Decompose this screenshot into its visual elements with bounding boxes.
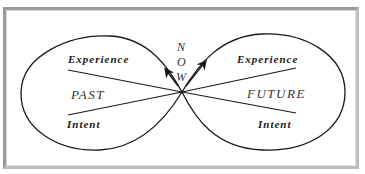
past-intent-label: Intent: [66, 118, 101, 130]
now-letter-n: N: [176, 40, 186, 54]
future-intent-label: Intent: [257, 118, 292, 130]
now-letter-w: W: [176, 70, 187, 84]
future-experience-label: Experience: [236, 53, 298, 65]
now-letter-o: O: [177, 55, 186, 69]
past-experience-label: Experience: [67, 53, 129, 65]
infinity-diagram: Experience Intent PAST Experience Intent…: [0, 0, 365, 174]
future-region-label: FUTURE: [246, 86, 306, 101]
past-region-label: PAST: [70, 87, 105, 102]
now-arrow-right: [186, 62, 205, 86]
